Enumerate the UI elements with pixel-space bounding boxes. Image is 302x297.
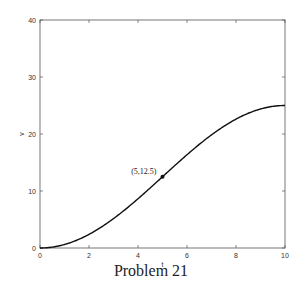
annotation-point xyxy=(161,175,165,179)
y-tick-label: 40 xyxy=(28,17,36,24)
x-tick-label: 10 xyxy=(281,252,289,259)
plot-frame xyxy=(40,20,285,248)
y-tick-label: 20 xyxy=(28,131,36,138)
figure-caption: Problem 21 xyxy=(0,262,302,280)
x-axis-ticks: 0246810 xyxy=(38,20,289,259)
x-tick-label: 0 xyxy=(38,252,42,259)
x-tick-label: 8 xyxy=(234,252,238,259)
y-tick-label: 10 xyxy=(28,188,36,195)
chart: 0246810 010203040 (5,12.5) t v xyxy=(0,0,302,297)
x-tick-label: 2 xyxy=(87,252,91,259)
x-tick-label: 4 xyxy=(136,252,140,259)
y-axis-label: v xyxy=(18,132,25,136)
x-tick-label: 6 xyxy=(185,252,189,259)
y-tick-label: 0 xyxy=(32,245,36,252)
y-tick-label: 30 xyxy=(28,74,36,81)
y-axis-ticks: 010203040 xyxy=(28,17,285,252)
annotation-label: (5,12.5) xyxy=(131,167,157,176)
